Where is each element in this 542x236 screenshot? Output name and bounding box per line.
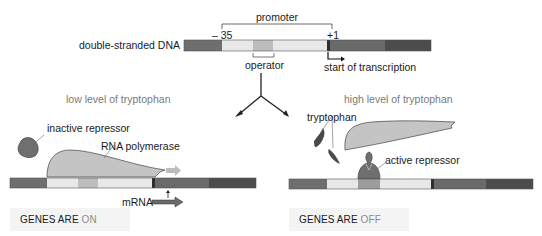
active-repressor-label: active repressor	[385, 155, 460, 166]
inactive-repressor-label: inactive repressor	[47, 123, 130, 134]
low-tryptophan-condition: low level of tryptophan	[66, 94, 170, 105]
transcription-start-label: start of transcription	[324, 62, 416, 73]
rna-polymerase-label: RNA polymerase	[101, 141, 180, 152]
mrna-label: mRNA	[122, 197, 153, 208]
minus35-label: – 35	[212, 30, 232, 41]
operator-label: operator	[245, 60, 284, 71]
operon-diagram	[0, 0, 542, 236]
plus1-label: +1	[327, 30, 339, 41]
tryptophan-molecule-2	[328, 149, 340, 164]
left-dna-strand	[10, 178, 256, 188]
status-prefix: GENES ARE	[20, 214, 82, 225]
high-tryptophan-condition: high level of tryptophan	[344, 94, 453, 105]
status-state: OFF	[361, 214, 381, 225]
mrna-arrow	[152, 197, 183, 207]
promoter-bracket	[222, 24, 332, 29]
detached-polymerase-shape	[345, 121, 455, 150]
polymerase-direction-arrow	[166, 165, 181, 176]
promoter-label: promoter	[256, 12, 298, 23]
tryptophan-label: tryptophan	[307, 112, 357, 123]
inactive-repressor-shape	[18, 138, 38, 158]
tryptophan-molecule-1	[314, 128, 324, 147]
transcription-start-arrow	[328, 52, 342, 59]
active-repressor-shape	[358, 152, 380, 179]
dna-label: double-stranded DNA	[79, 40, 180, 51]
operator-bracket	[253, 53, 274, 57]
right-status-banner: GENES ARE OFF	[289, 208, 409, 231]
top-dna-strand	[184, 40, 431, 51]
right-dna-strand	[289, 179, 533, 189]
left-status-banner: GENES ARE ON	[10, 208, 130, 231]
status-prefix: GENES ARE	[299, 214, 361, 225]
status-state: ON	[82, 214, 97, 225]
branch-arrows	[238, 73, 287, 115]
rna-polymerase-shape	[47, 150, 165, 177]
